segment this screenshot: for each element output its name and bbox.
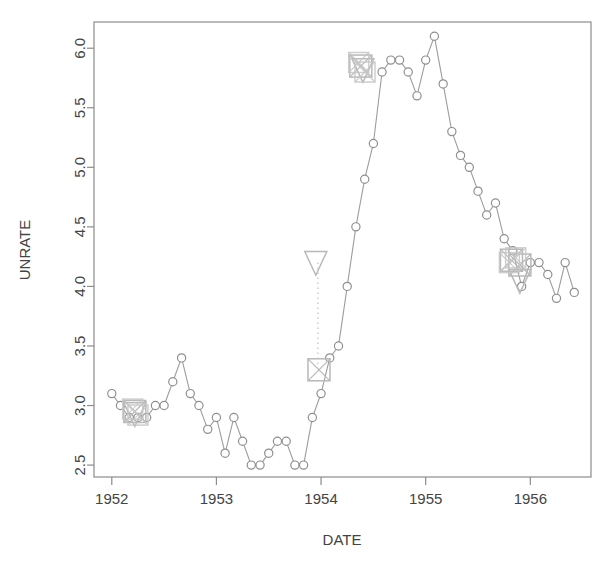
data-point-marker [317,390,325,398]
data-point-marker [177,354,185,362]
data-point-marker [108,390,116,398]
y-tick-label: 2.5 [72,455,89,476]
x-tick-label: 1956 [514,490,547,507]
data-point-marker [544,270,552,278]
data-point-marker [491,199,499,207]
y-tick-label: 5.5 [72,97,89,118]
data-point-marker [448,127,456,135]
data-point-marker [186,390,194,398]
data-point-marker [404,68,412,76]
data-point-marker [535,259,543,267]
data-point-marker [387,56,395,64]
data-point-marker [221,449,229,457]
x-tick-label: 1955 [409,490,442,507]
data-point-marker [273,437,281,445]
data-point-marker [238,437,246,445]
data-point-marker [343,282,351,290]
data-point-marker [456,151,464,159]
y-tick-label: 3.5 [72,336,89,357]
y-axis-title: UNRATE [16,220,33,281]
y-axis: 2.53.03.54.04.55.05.56.0 [72,38,95,476]
data-point-marker [361,175,369,183]
data-point-marker [265,449,273,457]
chart-root: 2.53.03.54.04.55.05.56.0 195219531954195… [0,0,615,571]
x-tick-label: 1953 [200,490,233,507]
data-point-marker [430,32,438,40]
data-point-marker [195,401,203,409]
data-point-marker [500,235,508,243]
y-tick-label: 3.0 [72,395,89,416]
data-point-marker [439,80,447,88]
data-point-marker [256,461,264,469]
y-tick-label: 6.0 [72,38,89,59]
data-point-marker [413,92,421,100]
series-line-path [112,36,574,465]
data-point-marker [422,56,430,64]
y-tick-label: 4.5 [72,216,89,237]
data-point-marker [169,378,177,386]
x-axis: 19521953195419551956 [95,477,547,507]
data-point-marker [334,342,342,350]
data-point-marker [561,259,569,267]
data-point-marker [151,401,159,409]
data-point-marker [352,223,360,231]
y-tick-label: 5.0 [72,157,89,178]
x-tick-label: 1952 [95,490,128,507]
data-point-marker [291,461,299,469]
data-point-marker [282,437,290,445]
data-point-marker [483,211,491,219]
data-point-marker [204,425,212,433]
unrate-time-series-chart: 2.53.03.54.04.55.05.56.0 195219531954195… [0,0,615,571]
y-tick-label: 4.0 [72,276,89,297]
data-point-marker [552,294,560,302]
data-point-marker [247,461,255,469]
data-point-marker [299,461,307,469]
data-point-marker [230,413,238,421]
data-point-marker [160,401,168,409]
data-line [112,36,574,465]
data-point-marker [570,288,578,296]
x-tick-label: 1954 [304,490,337,507]
data-point-marker [465,163,473,171]
data-point-marker [212,413,220,421]
marker-1954-triangle [305,252,327,276]
data-point-marker [474,187,482,195]
data-point-marker [369,139,377,147]
data-point-marker [395,56,403,64]
x-axis-title: DATE [323,531,362,548]
data-point-marker [308,413,316,421]
triangle-down-marker-icon [305,252,327,276]
data-point-marker [378,68,386,76]
